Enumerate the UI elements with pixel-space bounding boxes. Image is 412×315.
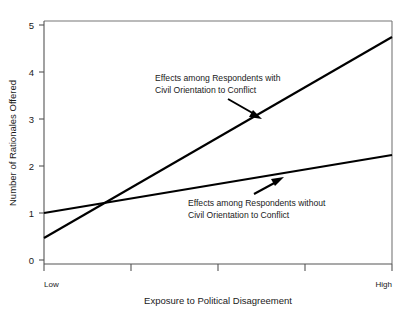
y-tick-label-1: 1 <box>29 208 34 219</box>
y-tick-label-2: 2 <box>29 161 34 172</box>
y-tick-label-5: 5 <box>29 20 34 31</box>
y-tick-label-4: 4 <box>29 67 34 78</box>
x-axis: Low High Exposure to Political Disagreem… <box>44 264 392 306</box>
annotation-noncivil-line-2: Civil Orientation to Conflict <box>188 210 290 220</box>
annotation-noncivil-arrow-icon <box>254 177 284 194</box>
annotation-civil-line-1: Effects among Respondents with <box>155 73 281 83</box>
figure-container: 5 4 3 2 1 0 Number of Rationales Offered… <box>0 0 412 315</box>
y-axis: 5 4 3 2 1 0 Number of Rationales Offered <box>7 20 44 266</box>
annotation-civil-line-2: Civil Orientation to Conflict <box>155 85 257 95</box>
y-tick-label-3: 3 <box>29 114 34 125</box>
annotation-noncivil-line-1: Effects among Respondents without <box>188 198 326 208</box>
y-axis-title: Number of Rationales Offered <box>7 80 18 206</box>
y-tick-label-0: 0 <box>29 255 34 266</box>
line-chart: 5 4 3 2 1 0 Number of Rationales Offered… <box>0 0 412 315</box>
x-axis-title: Exposure to Political Disagreement <box>144 295 292 306</box>
annotation-no-civil-orientation: Effects among Respondents without Civil … <box>188 177 326 220</box>
plot-frame <box>44 21 392 264</box>
annotation-civil-arrow-icon <box>228 99 262 119</box>
x-axis-low-label: Low <box>44 280 59 289</box>
x-axis-high-label: High <box>376 280 392 289</box>
